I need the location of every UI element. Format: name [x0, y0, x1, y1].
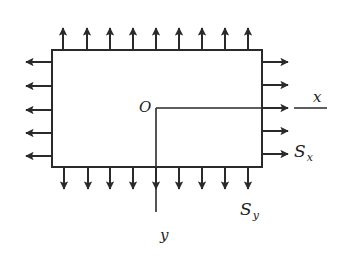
stress-plate-diagram: [0, 0, 343, 256]
origin-label: O: [139, 100, 151, 115]
sy-stress-label: Sy: [240, 201, 259, 218]
sx-main: S: [294, 141, 306, 161]
x-axis-label: x: [313, 90, 321, 105]
top-edge-stress-arrows: [63, 28, 248, 50]
sx-stress-label: Sx: [294, 143, 313, 160]
sx-subscript: x: [307, 151, 313, 164]
right-edge-stress-arrows: [262, 62, 288, 154]
sy-subscript: y: [253, 209, 259, 222]
y-axis-label: y: [160, 228, 168, 243]
sy-main: S: [240, 199, 252, 219]
left-edge-stress-arrows: [26, 62, 52, 156]
